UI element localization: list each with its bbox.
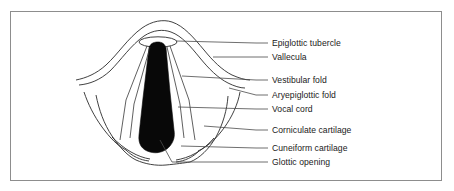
label-cuneiform-cartilage: Cuneiform cartilage	[272, 144, 347, 153]
label-vocal-cord: Vocal cord	[272, 105, 313, 114]
annotation-labels: Epiglottic tubercle Vallecula Vestibular…	[0, 0, 454, 191]
label-glottic-opening: Glottic opening	[272, 158, 330, 167]
label-corniculate-cartilage: Corniculate cartilage	[272, 126, 351, 135]
label-epiglottic-tubercle: Epiglottic tubercle	[272, 39, 341, 48]
label-vestibular-fold: Vestibular fold	[272, 76, 327, 85]
larynx-figure: Epiglottic tubercle Vallecula Vestibular…	[0, 0, 454, 191]
label-aryepiglottic-fold: Aryepiglottic fold	[272, 91, 336, 100]
label-vallecula: Vallecula	[272, 53, 307, 62]
